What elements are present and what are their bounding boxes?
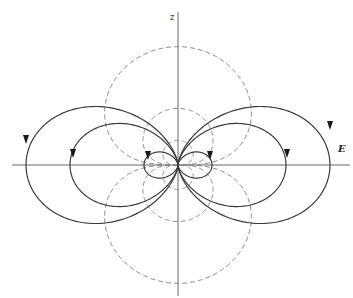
- arrow-down-icon: [23, 135, 29, 144]
- dipole-diagram: [0, 0, 353, 298]
- arrow-down-icon: [327, 121, 333, 130]
- field-label-e: E: [338, 143, 346, 154]
- z-axis-label: z: [170, 13, 174, 22]
